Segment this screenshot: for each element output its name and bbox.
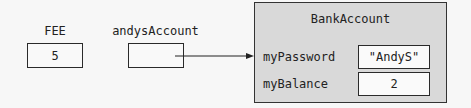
reference-arrow [0, 0, 471, 108]
arrowhead-icon [246, 53, 254, 59]
